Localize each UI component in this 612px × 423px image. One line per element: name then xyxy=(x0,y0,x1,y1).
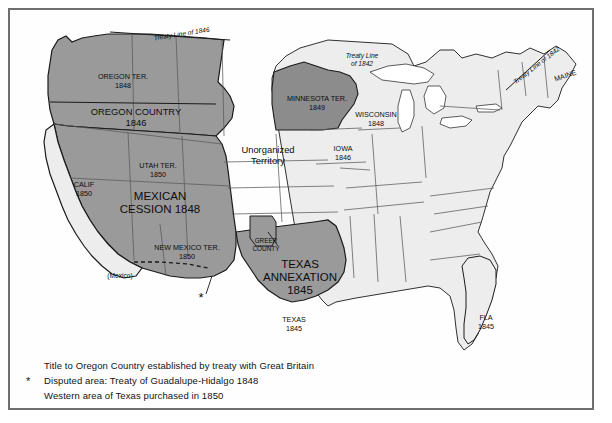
legend-text: Disputed area: Treaty of Guadalupe-Hidal… xyxy=(44,375,258,386)
legend-text: Western area of Texas purchased in 1850 xyxy=(44,390,223,401)
legend-row: Western area of Texas purchased in 1850 xyxy=(26,390,446,405)
map-legend: Title to Oregon Country established by t… xyxy=(26,360,446,405)
map-label-text: 1846 xyxy=(126,117,147,128)
legend-star: * xyxy=(26,376,30,387)
map-label-text: 1848 xyxy=(368,119,384,128)
us-territorial-map: Treaty Line of 1846Treaty Lineof 1842Tre… xyxy=(10,10,602,358)
disputed-pointer-line xyxy=(206,276,212,294)
map-label-text: 1849 xyxy=(309,103,325,112)
map-label-text: COUNTY xyxy=(253,245,281,252)
map-label-text: 1848 xyxy=(115,81,131,90)
map-label-text: GREER xyxy=(255,237,278,244)
legend-row: Title to Oregon Country established by t… xyxy=(26,360,446,375)
map-label-text: Treaty Line xyxy=(346,52,379,60)
map-label-text: ANNEXATION xyxy=(263,271,337,283)
map-label-text: 1845 xyxy=(478,322,494,331)
map-label-florida: FLA1845 xyxy=(478,313,494,331)
map-label-text: 1850 xyxy=(179,252,195,261)
legend-text: Title to Oregon Country established by t… xyxy=(44,360,314,371)
map-label-text: of 1842 xyxy=(351,60,373,67)
map-label-text: 1846 xyxy=(335,153,351,162)
map-label-text: Territory xyxy=(251,155,285,166)
map-label-text: 1850 xyxy=(76,189,92,198)
florida-peninsula xyxy=(462,256,496,344)
map-label-text: MEXICAN xyxy=(134,190,186,202)
map-label-text: 1850 xyxy=(150,170,166,179)
map-label-text: CESSION 1848 xyxy=(120,203,201,215)
map-label-text: TEXAS xyxy=(281,258,319,270)
map-label-texas: TEXAS1845 xyxy=(282,315,306,333)
map-page: Treaty Line of 1846Treaty Lineof 1842Tre… xyxy=(0,0,612,423)
map-label-text: Unorganized xyxy=(241,144,294,155)
map-label-iowa: IOWA1846 xyxy=(334,144,353,162)
map-label-text: OREGON COUNTRY xyxy=(91,106,182,117)
map-label-text: 1845 xyxy=(287,284,313,296)
disputed-area-asterisk: * xyxy=(198,290,203,305)
map-label-text: (Mexico) xyxy=(107,272,132,280)
map-label-greer-county: GREERCOUNTY xyxy=(253,237,281,252)
legend-row: * Disputed area: Treaty of Guadalupe-Hid… xyxy=(26,375,446,390)
map-label-mexico: (Mexico) xyxy=(107,272,132,280)
map-label-california: CALIF1850 xyxy=(74,180,95,198)
map-label-text: 1845 xyxy=(286,324,302,333)
